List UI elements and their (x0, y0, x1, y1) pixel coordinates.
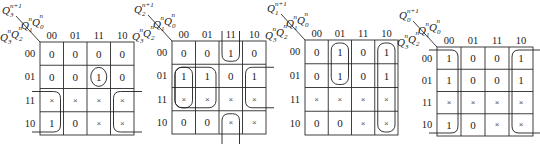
kmap-q0: Q0n+1Q1nQ0nQ3nQ2n00011110000111101001100… (397, 7, 540, 136)
dont-care-cell: × (338, 95, 343, 104)
row-header: 11 (157, 94, 167, 105)
kmap-cell: 1 (518, 74, 524, 86)
row-header: 10 (25, 118, 36, 129)
column-header: 00 (47, 30, 58, 41)
row-header: 00 (25, 48, 36, 59)
kmap-cell: 1 (252, 70, 258, 82)
row-header: 01 (157, 70, 168, 81)
dont-care-cell: × (384, 95, 389, 104)
dont-care-cell: × (495, 98, 500, 107)
dont-care-cell: × (228, 118, 233, 127)
dont-care-cell: × (96, 119, 101, 128)
kmap-cell: 0 (470, 119, 476, 131)
column-header: 10 (381, 28, 392, 39)
row-header: 01 (290, 70, 301, 81)
column-header: 01 (202, 29, 213, 40)
kmap-cell: 0 (181, 47, 187, 59)
output-variable-label: Q2n+1 (134, 1, 154, 18)
kmap-cell: 1 (446, 52, 452, 64)
kmap-cell: 1 (384, 70, 390, 82)
dont-care-cell: × (252, 118, 257, 127)
row-header: 01 (25, 71, 36, 82)
row-header: 10 (157, 117, 168, 128)
dont-care-cell: × (519, 120, 524, 129)
row-variable-label: Q3nQ2n (132, 23, 155, 45)
row-header: 00 (157, 47, 168, 58)
dont-care-cell: × (495, 120, 500, 129)
dont-care-cell: × (73, 96, 78, 105)
row-header: 00 (290, 46, 301, 57)
kmap-cell: 0 (73, 117, 79, 129)
kmap-cell: 0 (73, 48, 79, 60)
kmap-cell: 0 (470, 52, 476, 64)
kmap-cell: 0 (494, 74, 500, 86)
kmap-cell: 1 (446, 119, 452, 131)
kmap-q1: Q1n+1Q1nQ0nQ3nQ2n00011110000111100101010… (265, 0, 398, 135)
output-variable-label: Q3n+1 (2, 2, 22, 19)
dont-care-cell: × (361, 119, 366, 128)
column-header: 01 (468, 35, 479, 46)
dont-care-cell: × (361, 95, 366, 104)
kmap-cell: 0 (494, 52, 500, 64)
kmap-cell: 0 (360, 70, 366, 82)
kmap-cell: 0 (49, 71, 55, 83)
dont-care-cell: × (49, 96, 54, 105)
kmap-cell: 1 (205, 70, 211, 82)
kmap-cell: 0 (252, 47, 258, 59)
row-variable-label: Q3nQ2n (265, 22, 288, 44)
column-header: 10 (249, 29, 260, 40)
dont-care-cell: × (120, 96, 125, 105)
dont-care-cell: × (384, 119, 389, 128)
output-variable-label: Q1n+1 (267, 0, 287, 17)
kmap-cell: 1 (181, 70, 187, 82)
kmap-cell: 0 (73, 71, 79, 83)
kmap-cell: 1 (384, 46, 390, 58)
row-variable-label: Q3nQ2n (0, 24, 23, 46)
kmap-cell: 0 (314, 117, 320, 129)
kmap-cell: 0 (360, 46, 366, 58)
kmap-figure: Q3n+1Q1nQ0nQ3nQ2n00011110000111100000001… (0, 0, 540, 149)
column-variable-label: Q1nQ0n (418, 17, 441, 39)
kmap-cell: 0 (470, 74, 476, 86)
row-header: 10 (422, 119, 433, 130)
row-header: 11 (422, 97, 432, 108)
kmap-cell: 0 (96, 48, 102, 60)
row-header: 00 (422, 53, 433, 64)
dont-care-cell: × (205, 95, 210, 104)
column-header: 00 (444, 35, 455, 46)
column-header: 00 (311, 28, 322, 39)
kmap-cell: 0 (314, 46, 320, 58)
column-variable-label: Q1nQ0n (21, 12, 44, 34)
output-variable-label: Q0n+1 (399, 7, 419, 24)
kmap-cell: 0 (314, 70, 320, 82)
kmap-cell: 0 (228, 70, 234, 82)
kmap-cell: 0 (337, 117, 343, 129)
column-header: 10 (516, 35, 527, 46)
kmap-cell: 0 (120, 71, 126, 83)
dont-care-cell: × (447, 98, 452, 107)
kmap-cell: 0 (120, 48, 126, 60)
column-header: 10 (117, 30, 128, 41)
column-header: 01 (70, 30, 81, 41)
dont-care-cell: × (471, 98, 476, 107)
column-header: 11 (358, 28, 368, 39)
kmap-cell: 1 (228, 47, 234, 59)
dont-care-cell: × (181, 95, 186, 104)
column-header: 00 (179, 29, 190, 40)
kmap-cell: 1 (337, 70, 343, 82)
dont-care-cell: × (96, 96, 101, 105)
row-header: 11 (25, 95, 35, 106)
dont-care-cell: × (519, 98, 524, 107)
column-header: 11 (492, 35, 502, 46)
kmap-cell: 1 (337, 46, 343, 58)
kmap-cell: 1 (518, 52, 524, 64)
kmap-cell: 0 (181, 116, 187, 128)
kmap-cell: 0 (205, 47, 211, 59)
kmap-cell: 1 (49, 117, 55, 129)
dont-care-cell: × (314, 95, 319, 104)
row-header: 10 (290, 118, 301, 129)
dont-care-cell: × (228, 95, 233, 104)
kmap-cell: 1 (96, 71, 102, 83)
row-header: 11 (290, 94, 300, 105)
row-header: 01 (422, 75, 433, 86)
